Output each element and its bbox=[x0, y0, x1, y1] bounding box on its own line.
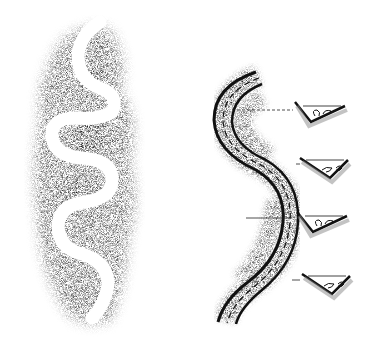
cross-section-3 bbox=[297, 212, 349, 236]
cross-section-1 bbox=[295, 102, 347, 126]
cross-section-4 bbox=[302, 274, 352, 298]
cross-section-2 bbox=[300, 158, 350, 182]
meander-illustration bbox=[0, 0, 377, 353]
